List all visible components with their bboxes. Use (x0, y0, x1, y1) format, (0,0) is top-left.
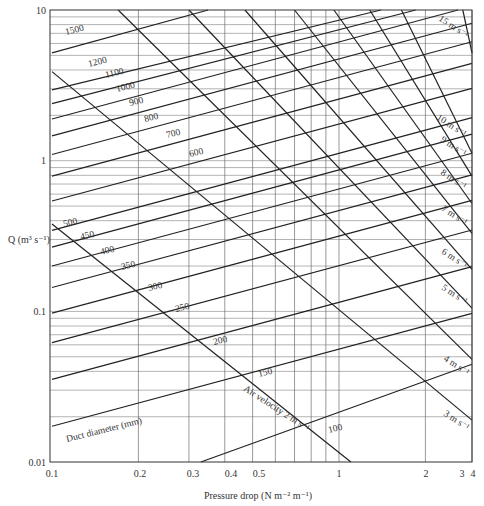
duct-line-800-mm (52, 42, 472, 155)
velocity-line-4 (118, 10, 472, 359)
x-tick-0.1: 0.1 (46, 468, 59, 479)
x-tick-2: 2 (424, 468, 429, 479)
label-400: 400 (99, 244, 115, 257)
label-450: 450 (79, 229, 95, 242)
duct-line-200-mm (52, 267, 472, 380)
y-tick-0.01: 0.01 (29, 457, 47, 468)
duct-line-700-mm (52, 63, 472, 176)
x-tick-0.5: 0.5 (253, 468, 266, 479)
label-500: 500 (62, 216, 78, 229)
x-tick-0.2: 0.2 (134, 468, 147, 479)
duct-line-900-mm (52, 23, 472, 136)
label-300: 300 (147, 280, 163, 293)
label-250: 250 (174, 301, 190, 314)
duct-diameter-labels: 1500 1200 1100 1000 900 800 700 600 500 … (62, 23, 343, 445)
x-tick-0.3: 0.3 (187, 468, 200, 479)
label-100: 100 (327, 422, 343, 435)
label-600: 600 (188, 146, 204, 159)
label-velocity-5: 5 m s⁻¹ (440, 282, 469, 306)
duct-line-400-mm (52, 153, 472, 266)
label-900: 900 (128, 95, 144, 108)
y-axis-title: Q (m³ s⁻¹) (8, 234, 50, 246)
duct-line-350-mm (52, 175, 472, 288)
duct-sizing-chart: 10 1 0.1 0.01 0.1 0.2 0.3 0.4 0.5 1 2 3 … (0, 0, 484, 506)
label-velocity-15: 15 m s⁻¹ (437, 13, 470, 40)
label-1000: 1000 (115, 80, 136, 94)
y-tick-1: 1 (41, 155, 46, 166)
x-tick-3: 3 (460, 468, 465, 479)
label-700: 700 (165, 127, 181, 140)
label-800: 800 (143, 111, 159, 124)
duct-line-1200-mm (52, 10, 381, 90)
duct-line-1000-mm (52, 10, 458, 119)
label-150: 150 (257, 366, 273, 379)
duct-line-500-mm (52, 118, 472, 231)
duct-line-450-mm (52, 134, 472, 247)
duct-line-100-mm (201, 364, 472, 462)
x-tick-4: 4 (471, 468, 476, 479)
label-velocity-7: 7 m s⁻¹ (440, 203, 469, 227)
label-velocity-3: 3 m s⁻¹ (442, 408, 471, 432)
label-velocity-8: 8 m s⁻¹ (439, 167, 468, 191)
y-tick-10: 10 (36, 5, 46, 16)
label-velocity-10: 10 m s⁻¹ (435, 112, 468, 139)
y-tick-0.1: 0.1 (34, 306, 47, 317)
label-1200: 1200 (87, 55, 108, 69)
label-350: 350 (120, 259, 136, 272)
label-1100: 1100 (104, 66, 125, 80)
x-axis-title: Pressure drop (N m⁻² m⁻¹) (204, 490, 312, 502)
vertical-grid-lines (138, 10, 472, 462)
x-tick-1: 1 (337, 468, 342, 479)
x-tick-0.4: 0.4 (225, 468, 238, 479)
duct-line-300-mm (52, 200, 472, 313)
